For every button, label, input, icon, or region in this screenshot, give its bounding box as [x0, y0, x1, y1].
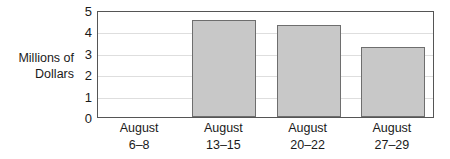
x-axis-tick-labels: August6–8August13–15August20–22August27–…: [97, 120, 434, 158]
x-axis-tick-label-line: August: [181, 120, 265, 137]
bars-layer: [98, 12, 433, 117]
x-axis-tick-label: August27–29: [350, 120, 434, 154]
x-axis-tick-label-line: 6–8: [97, 137, 181, 154]
x-axis-tick-label: August6–8: [97, 120, 181, 154]
bar: [192, 20, 256, 117]
x-axis-tick-label-line: 20–22: [266, 137, 350, 154]
x-axis-tick-label: August20–22: [266, 120, 350, 154]
bar: [361, 47, 425, 117]
x-axis-tick-label-line: August: [97, 120, 181, 137]
y-axis-tick-label: 3: [74, 47, 92, 60]
x-axis-tick-label-line: August: [266, 120, 350, 137]
x-axis-tick-label: August13–15: [181, 120, 265, 154]
y-axis-tick-label: 4: [74, 26, 92, 39]
x-axis-tick-label-line: 13–15: [181, 137, 265, 154]
y-axis-title: Millions of Dollars: [2, 50, 74, 82]
bar-chart: Millions of Dollars 012345 August6–8Augu…: [0, 0, 450, 159]
y-axis-tick-label: 2: [74, 69, 92, 82]
x-axis-tick-label-line: August: [350, 120, 434, 137]
plot-area: [97, 11, 434, 118]
y-axis-tick-label: 1: [74, 90, 92, 103]
bar: [277, 25, 341, 117]
y-axis-tick-labels: 012345: [74, 11, 92, 118]
y-axis-tick-label: 5: [74, 5, 92, 18]
y-axis-tick-label: 0: [74, 112, 92, 125]
x-axis-tick-label-line: 27–29: [350, 137, 434, 154]
